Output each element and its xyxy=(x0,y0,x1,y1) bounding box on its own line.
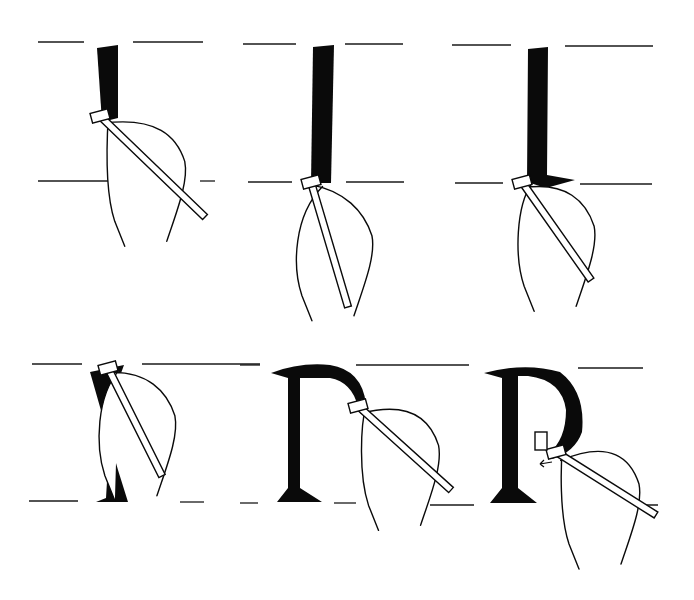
arrow-left-icon xyxy=(540,460,552,467)
hand-with-pen-icon xyxy=(512,175,595,311)
nib-detail-icon xyxy=(535,432,547,450)
ink-stroke-downstroke-complete xyxy=(311,45,334,183)
hand-with-pen-icon xyxy=(90,109,207,247)
hand-with-pen-icon xyxy=(535,432,658,569)
illustration-svg xyxy=(0,0,694,600)
ink-stroke-bowl-complete xyxy=(484,367,583,503)
ink-stroke-bowl-curve xyxy=(271,364,366,502)
hand-with-pen-icon xyxy=(296,175,372,321)
hand-with-pen-icon xyxy=(348,399,453,531)
ink-stroke-foot-serif xyxy=(527,47,575,188)
calligraphy-illustration xyxy=(0,0,694,600)
hands-with-pens xyxy=(90,109,658,569)
